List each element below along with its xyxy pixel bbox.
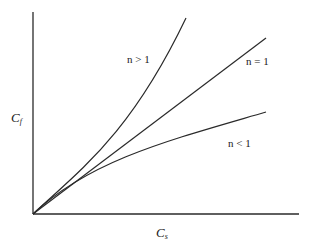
y-axis-label-main: C [11, 110, 20, 125]
diagram-canvas [0, 0, 309, 244]
curve-n-less-than-1 [33, 112, 266, 214]
freundlich-isotherm-diagram: n > 1 n = 1 n < 1 Cf Cs [0, 0, 309, 244]
y-axis-label: Cf [11, 111, 22, 126]
y-axis-label-subscript: f [20, 117, 22, 126]
x-axis-label-subscript: s [165, 232, 168, 241]
label-n-less-than-1: n < 1 [228, 138, 251, 149]
x-axis-label: Cs [156, 226, 168, 241]
label-n-equals-1: n = 1 [246, 56, 269, 67]
label-n-greater-than-1: n > 1 [127, 54, 150, 65]
x-axis-label-main: C [156, 225, 165, 240]
